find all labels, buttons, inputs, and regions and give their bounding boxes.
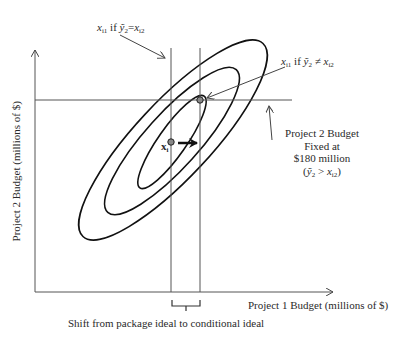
annotation-arrow-top-right [207, 67, 285, 98]
ideal-point-label: xi [161, 140, 168, 154]
bracket-caption: Shift from package ideal to conditional … [68, 317, 264, 330]
y-axis-label: Project 2 Budget (millions of $) [10, 91, 23, 251]
fixed-budget-line2: Fixed at [272, 140, 372, 153]
package-ideal-point [168, 139, 174, 145]
fixed-budget-line4: (ỹ2 > xi2) [272, 165, 372, 179]
conditional-ideal-point [197, 97, 203, 103]
annotation-top-left: xi1 if ỹ2=xi2 [97, 21, 145, 35]
fixed-budget-note: Project 2 Budget Fixed at $180 million (… [272, 127, 372, 179]
annotation-top-right: xi1 if ỹ2 ≠ xi2 [281, 55, 334, 69]
annotation-arrow-top-left [120, 35, 165, 58]
shift-bracket [172, 300, 200, 311]
fixed-budget-line3: $180 million [272, 152, 372, 165]
fixed-budget-line1: Project 2 Budget [272, 127, 372, 140]
guide-lines [35, 48, 292, 292]
x-axis-label: Project 1 Budget (millions of $) [248, 299, 388, 312]
